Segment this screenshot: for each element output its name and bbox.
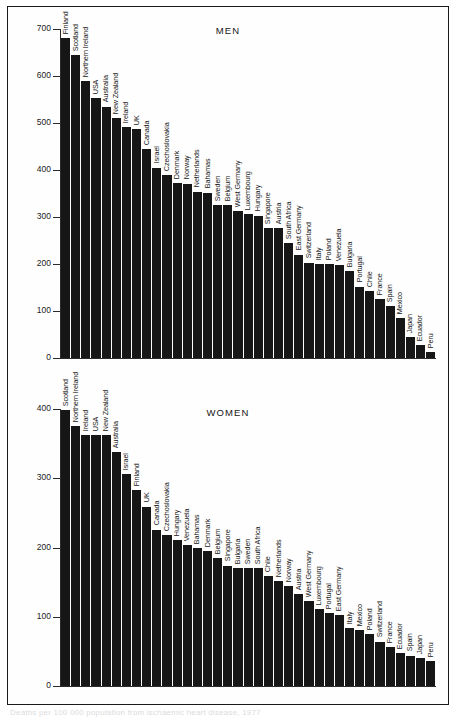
- bar[interactable]: Switzerland: [375, 642, 384, 686]
- bar[interactable]: Canada: [152, 530, 161, 687]
- bar-item[interactable]: New Zealand: [112, 29, 121, 358]
- bar-item[interactable]: Austria: [294, 409, 303, 686]
- bar-item[interactable]: Chile: [365, 29, 374, 358]
- bar[interactable]: USA: [91, 98, 100, 358]
- bar[interactable]: Czechoslovakia: [162, 175, 171, 358]
- bar-item[interactable]: UK: [142, 409, 151, 686]
- bar[interactable]: Peru: [426, 661, 435, 686]
- bar[interactable]: Poland: [365, 634, 374, 686]
- bar-item[interactable]: Mexico: [396, 29, 405, 358]
- bar[interactable]: France: [386, 647, 395, 686]
- bar[interactable]: Finland: [61, 38, 70, 358]
- bar-item[interactable]: Denmark: [173, 29, 182, 358]
- bar[interactable]: West Germany: [304, 601, 313, 686]
- bar[interactable]: Ireland: [122, 127, 131, 358]
- bar-item[interactable]: South Africa: [284, 29, 293, 358]
- bar-item[interactable]: Israel: [152, 29, 161, 358]
- bar-item[interactable]: Portugal: [325, 409, 334, 686]
- bar[interactable]: Portugal: [325, 613, 334, 686]
- bar-item[interactable]: Japan: [406, 29, 415, 358]
- bar[interactable]: Italy: [345, 628, 354, 686]
- bar-item[interactable]: West Germany: [233, 29, 242, 358]
- bar[interactable]: Australia: [102, 107, 111, 358]
- bar[interactable]: Japan: [406, 337, 415, 358]
- bar-item[interactable]: Mexico: [355, 409, 364, 686]
- bar[interactable]: Luxembourg: [315, 609, 324, 686]
- bar[interactable]: UK: [142, 507, 151, 686]
- bar-item[interactable]: Venezuela: [183, 409, 192, 686]
- bar-item[interactable]: USA: [91, 409, 100, 686]
- bar[interactable]: East Germany: [294, 255, 303, 358]
- bar[interactable]: Bahamas: [203, 193, 212, 358]
- bar-item[interactable]: Canada: [152, 409, 161, 686]
- bar-item[interactable]: Peru: [426, 29, 435, 358]
- bar[interactable]: Sweden: [244, 568, 253, 686]
- bar-item[interactable]: Singapore: [264, 29, 273, 358]
- bar-item[interactable]: Singapore: [223, 409, 232, 686]
- bar[interactable]: Scotland: [71, 55, 80, 358]
- bar-item[interactable]: East Germany: [335, 409, 344, 686]
- bar-item[interactable]: USA: [91, 29, 100, 358]
- bar-item[interactable]: Northern Ireland: [81, 29, 90, 358]
- bar[interactable]: Belgium: [213, 558, 222, 686]
- bar[interactable]: Denmark: [203, 551, 212, 686]
- bar-item[interactable]: Ireland: [122, 29, 131, 358]
- bar-item[interactable]: Luxembourg: [315, 409, 324, 686]
- bar[interactable]: Switzerland: [304, 263, 313, 358]
- bar[interactable]: Austria: [274, 228, 283, 358]
- bar[interactable]: France: [375, 299, 384, 358]
- bar-item[interactable]: Poland: [325, 29, 334, 358]
- bar[interactable]: Chile: [264, 576, 273, 686]
- bar-item[interactable]: Spain: [406, 409, 415, 686]
- bar-item[interactable]: Scotland: [61, 409, 70, 686]
- bar-item[interactable]: UK: [132, 29, 141, 358]
- bar[interactable]: Singapore: [223, 566, 232, 686]
- bar-item[interactable]: Czechoslovakia: [162, 29, 171, 358]
- bar[interactable]: Hungary: [173, 540, 182, 686]
- bar[interactable]: Canada: [142, 149, 151, 358]
- bar[interactable]: Norway: [183, 184, 192, 358]
- bar-item[interactable]: Bahamas: [203, 29, 212, 358]
- bar-item[interactable]: Switzerland: [375, 409, 384, 686]
- bar[interactable]: New Zealand: [112, 118, 121, 358]
- bar-item[interactable]: Bulgaria: [345, 29, 354, 358]
- bar[interactable]: Mexico: [355, 630, 364, 686]
- bar[interactable]: Czechoslovakia: [162, 535, 171, 686]
- bar-item[interactable]: New Zealand: [102, 409, 111, 686]
- bar[interactable]: USA: [91, 435, 100, 686]
- bar[interactable]: Portugal: [355, 287, 364, 358]
- bar-item[interactable]: Israel: [122, 409, 131, 686]
- bar-item[interactable]: France: [386, 409, 395, 686]
- bar-item[interactable]: Bulgaria: [233, 409, 242, 686]
- bar[interactable]: Bulgaria: [233, 568, 242, 686]
- bar[interactable]: Spain: [406, 656, 415, 686]
- bar[interactable]: Spain: [386, 306, 395, 358]
- bar-item[interactable]: Czechoslovakia: [162, 409, 171, 686]
- bar[interactable]: Northern Ireland: [81, 81, 90, 358]
- bar-item[interactable]: South Africa: [254, 409, 263, 686]
- bar-item[interactable]: Italy: [315, 29, 324, 358]
- bar-item[interactable]: Sweden: [244, 409, 253, 686]
- bar-item[interactable]: West Germany: [304, 409, 313, 686]
- bar-item[interactable]: Canada: [142, 29, 151, 358]
- bar[interactable]: Italy: [315, 264, 324, 358]
- bar-item[interactable]: Luxembourg: [244, 29, 253, 358]
- bar-item[interactable]: Belgium: [223, 29, 232, 358]
- bar-item[interactable]: Japan: [416, 409, 425, 686]
- bar[interactable]: Northern Ireland: [71, 426, 80, 686]
- bar[interactable]: Norway: [284, 586, 293, 686]
- bar[interactable]: Venezuela: [335, 265, 344, 358]
- bar[interactable]: Sweden: [213, 205, 222, 358]
- bar[interactable]: Denmark: [173, 183, 182, 358]
- bar-item[interactable]: Belgium: [213, 409, 222, 686]
- bar-item[interactable]: Scotland: [71, 29, 80, 358]
- bar-item[interactable]: Austria: [274, 29, 283, 358]
- bar-item[interactable]: Switzerland: [304, 29, 313, 358]
- bar-item[interactable]: Hungary: [254, 29, 263, 358]
- bar-item[interactable]: Norway: [183, 29, 192, 358]
- bar[interactable]: Finland: [132, 490, 141, 686]
- bar-item[interactable]: Netherlands: [274, 409, 283, 686]
- bar[interactable]: Singapore: [264, 228, 273, 358]
- bar-item[interactable]: Hungary: [173, 409, 182, 686]
- bar-item[interactable]: Bahamas: [193, 409, 202, 686]
